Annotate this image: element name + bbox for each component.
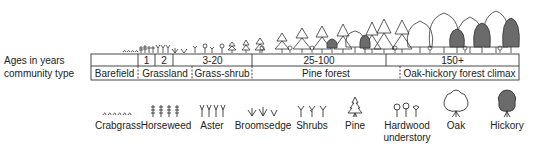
community-grass-shrub: Grass-shrub [192, 67, 252, 80]
legend-label: Aster [194, 120, 230, 132]
age-cell-150-plus: 150+ [386, 54, 519, 67]
legend-shrubs: Shrubs [293, 102, 331, 132]
legend-label-line2: understory [381, 132, 433, 144]
shrubs-icon [297, 102, 327, 118]
legend-label: Shrubs [293, 120, 331, 132]
age-cell-25-100: 25-100 [252, 54, 386, 67]
crabgrass-icon [101, 106, 135, 118]
legend-label: Hardwood [381, 120, 433, 132]
legend-label: Horseweed [138, 120, 194, 132]
legend-aster: Aster [194, 102, 230, 132]
legend-label: Crabgrass [93, 120, 143, 132]
horseweed-icon [149, 102, 183, 118]
age-cell-1: 1 [138, 54, 155, 67]
community-grassland: Grassland [138, 67, 192, 80]
legend-label: Oak [440, 120, 472, 132]
community-pine-forest: Pine forest [252, 67, 400, 80]
aster-icon [199, 102, 225, 118]
community-oak-hickory-climax: Oak-hickory forest climax [400, 67, 519, 80]
oak-icon [443, 89, 469, 118]
community-barefield: Barefield [91, 67, 138, 80]
legend-label: Broomsedge [232, 120, 294, 132]
legend-oak: Oak [440, 89, 472, 132]
legend-crabgrass: Crabgrass [93, 106, 143, 132]
legend-hardwood-understory: Hardwood understory [381, 102, 433, 144]
legend-horseweed: Horseweed [138, 102, 194, 132]
legend-broomsedge: Broomsedge [232, 104, 294, 132]
hickory-icon [497, 89, 517, 118]
age-cell-2: 2 [155, 54, 173, 67]
age-cell-3-20: 3-20 [173, 54, 252, 67]
legend-label: Hickory [486, 120, 528, 132]
legend-pine: Pine [338, 96, 372, 132]
broomsedge-icon [247, 104, 279, 118]
legend-hickory: Hickory [486, 89, 528, 132]
pine-icon [347, 96, 363, 118]
legend-label: Pine [338, 120, 372, 132]
hardwood-understory-icon [392, 102, 422, 118]
